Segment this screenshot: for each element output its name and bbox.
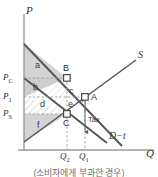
price-tick-p1: P1 bbox=[3, 92, 12, 103]
area-label-c: c bbox=[69, 87, 74, 96]
area-label-e: e bbox=[68, 100, 73, 109]
tax-incidence-diagram: P Q PC P1 PS Q2 Q1 S D−t B A C a b c d e… bbox=[0, 0, 158, 177]
qty-tick-q2: Q2 bbox=[60, 152, 70, 163]
point-label-b: B bbox=[63, 64, 69, 73]
qty-tick-q1: Q1 bbox=[79, 152, 89, 163]
area-label-d: d bbox=[40, 100, 45, 109]
point-label-c: C bbox=[63, 119, 70, 128]
shade-consumer-surplus bbox=[24, 44, 67, 78]
tax-annotation-label: Tax bbox=[88, 116, 100, 124]
demand-after-tax-curve-label: D−t bbox=[109, 131, 126, 141]
area-label-b: b bbox=[33, 83, 38, 92]
price-tick-pc: PC bbox=[3, 73, 13, 84]
supply-curve-label: S bbox=[138, 50, 143, 60]
area-label-a: a bbox=[35, 61, 40, 70]
y-axis-label: P bbox=[26, 5, 33, 16]
price-tick-ps: PS bbox=[3, 109, 12, 120]
x-axis-label: Q bbox=[146, 148, 154, 159]
point-label-a: A bbox=[91, 93, 97, 102]
figure-caption: (소비자에게 부과한 경우) bbox=[0, 166, 158, 177]
area-label-f: f bbox=[37, 121, 40, 130]
